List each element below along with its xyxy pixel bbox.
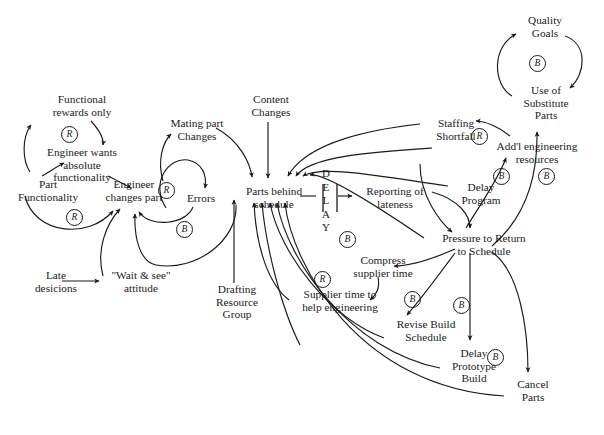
node-part-functionality: PartFunctionality <box>6 178 90 203</box>
loop-marker-marker-r-supplier: R <box>314 271 331 288</box>
loop-marker-marker-b-errors: B <box>176 221 193 238</box>
loop-marker-marker-r-functionality: R <box>66 209 83 226</box>
node-compress-supplier-time: Compresssupplier time <box>340 254 426 279</box>
node-drafting-resource-group: DraftingResourceGroup <box>204 283 270 321</box>
diagram-connectors <box>0 0 604 435</box>
node-pressure-to-return-schedule: Pressure to Returnto Schedule <box>428 232 540 257</box>
loop-marker-marker-b-compress: B <box>404 291 421 308</box>
loop-marker-marker-b-addl-right: B <box>538 168 555 185</box>
delay-letter-a: A <box>322 208 330 222</box>
node-errors: Errors <box>178 192 224 205</box>
node-use-of-substitute-parts: Use ofSubstituteParts <box>512 84 580 122</box>
node-quality-goals: QualityGoals <box>514 14 576 39</box>
loop-marker-marker-r-errors: R <box>158 182 175 199</box>
node-late-decisions: Latedesicions <box>25 269 87 294</box>
delay-letter-d: D <box>322 167 330 181</box>
node-parts-behind-schedule: Parts behindschedule <box>232 185 316 210</box>
edge-rewards-to-wants <box>91 121 103 145</box>
node-wait-and-see-attitude: "Wait & see"attitude <box>103 269 179 294</box>
delay-letters: DELAY <box>322 167 330 235</box>
loop-marker-marker-b-revise: B <box>453 297 470 314</box>
delay-letter-e: E <box>322 181 330 195</box>
causal-loop-diagram: Functionalrewards onlyEngineer wantsabso… <box>0 0 604 435</box>
delay-letter-y: Y <box>322 221 330 235</box>
loop-marker-marker-r-staffing: R <box>471 128 488 145</box>
loop-marker-marker-b-quality: B <box>529 55 546 72</box>
node-revise-build-schedule: Revise BuildSchedule <box>385 318 467 343</box>
loop-marker-marker-r-rewards: R <box>61 126 78 143</box>
edge-revise-long-to-parts <box>262 203 300 345</box>
node-content-changes: ContentChanges <box>238 93 304 118</box>
loop-marker-marker-b-prototype: B <box>487 349 504 366</box>
loop-marker-marker-b-delay-program: B <box>493 168 510 185</box>
delay-letter-l: L <box>322 194 330 208</box>
node-reporting-of-lateness: Reporting oflateness <box>355 185 435 210</box>
node-functional-rewards-only: Functionalrewards only <box>32 93 132 118</box>
node-addl-engineering-resources: Add'l engineeringresources <box>481 140 593 165</box>
node-supplier-time-help-engineering: Supplier time tohelp engineering <box>288 288 392 313</box>
node-mating-part-changes: Mating partChanges <box>158 117 236 142</box>
node-cancel-parts: CancelParts <box>505 378 561 403</box>
edge-quality-to-substitute <box>565 36 582 88</box>
loop-marker-marker-b-delay: B <box>339 231 356 248</box>
